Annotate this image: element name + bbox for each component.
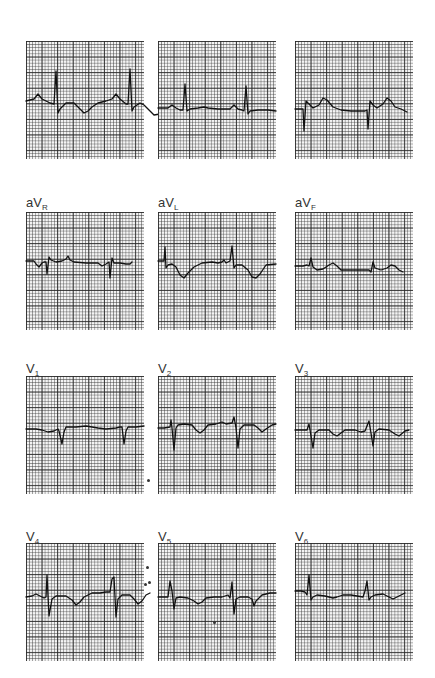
ecg-grid-paper — [295, 212, 413, 330]
ecg-grid-paper — [295, 543, 413, 661]
ecg-trace — [26, 41, 144, 159]
ecg-grid-paper — [295, 41, 413, 159]
ecg-trace — [295, 543, 413, 661]
print-artifact-dot — [147, 479, 150, 482]
ecg-trace — [295, 376, 413, 494]
lead-label-subscript: F — [311, 203, 316, 212]
lead-label-text: aV — [295, 195, 311, 210]
lead-label-subscript: R — [42, 203, 48, 212]
ecg-trace — [158, 41, 276, 159]
ecg-grid-paper — [158, 376, 276, 494]
lead-label-text: aV — [158, 195, 174, 210]
ecg-trace — [295, 212, 413, 330]
lead-label-text: V — [158, 529, 167, 544]
lead-label-text: V — [158, 361, 167, 376]
print-artifact-dot — [146, 566, 149, 569]
lead-label-text: aV — [26, 195, 42, 210]
ecg-grid-paper — [26, 212, 144, 330]
lead-label-subscript: L — [174, 203, 178, 212]
print-artifact-dot — [148, 581, 151, 584]
ecg-grid-paper — [158, 543, 276, 661]
ecg-trace — [158, 543, 276, 661]
ecg-trace — [26, 212, 144, 330]
lead-label-text: V — [295, 529, 304, 544]
print-artifact-dot — [213, 621, 216, 624]
lead-label-text: V — [26, 529, 35, 544]
lead-label-text: V — [295, 361, 304, 376]
ecg-grid-paper — [158, 41, 276, 159]
ecg-trace — [295, 41, 413, 159]
ecg-grid-paper — [26, 543, 144, 661]
print-artifact-dot — [144, 583, 147, 586]
ecg-grid-paper — [26, 376, 144, 494]
lead-label-text: V — [26, 361, 35, 376]
ecg-grid-paper — [158, 212, 276, 330]
ecg-trace — [158, 376, 276, 494]
ecg-trace — [26, 376, 144, 494]
ecg-grid-paper — [26, 41, 144, 159]
ecg-trace — [158, 212, 276, 330]
ecg-grid-paper — [295, 376, 413, 494]
ecg-trace — [26, 543, 144, 661]
